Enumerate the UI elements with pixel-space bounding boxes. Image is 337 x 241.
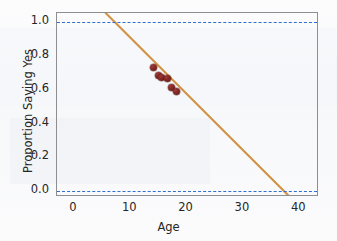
chart-figure: 0.00.20.40.60.81.0 010203040 Age Proport… [0,0,337,241]
reference-line-lower-bound [57,191,317,192]
y-tick-mark [56,157,57,158]
reference-line-upper-bound [57,22,317,23]
y-tick-mark [56,56,57,57]
x-tick-label: 20 [166,202,206,214]
y-tick-mark [56,124,57,125]
y-axis-title: Proportion Saying Yes [21,26,35,196]
regression-line [57,13,317,195]
fit-line-stroke [106,13,288,195]
y-tick-mark [56,191,57,192]
x-tick-label: 40 [278,202,318,214]
x-tick-mark [187,195,188,196]
x-tick-label: 30 [222,202,262,214]
plot-inner [57,13,317,195]
x-tick-label: 10 [109,202,149,214]
y-tick-mark [56,22,57,23]
x-tick-mark [243,195,244,196]
x-tick-label: 0 [53,202,93,214]
x-tick-mark [130,195,131,196]
data-point [173,88,180,95]
plot-area [56,12,318,196]
x-axis-title: Age [0,220,337,234]
x-tick-mark [74,195,75,196]
y-tick-mark [56,90,57,91]
x-tick-mark [299,195,300,196]
